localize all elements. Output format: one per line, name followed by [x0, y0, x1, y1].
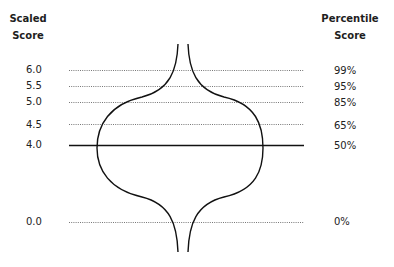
right-outline [188, 44, 263, 252]
reference-lines [69, 71, 304, 223]
bulb-curve [97, 44, 263, 252]
score-distribution-diagram [0, 0, 394, 267]
left-outline [97, 44, 178, 252]
